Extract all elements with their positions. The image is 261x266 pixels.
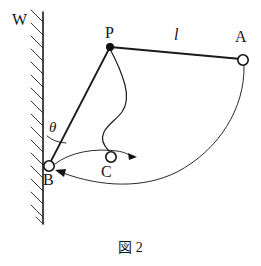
figure-caption: 図 2: [0, 236, 261, 256]
node-A: [238, 55, 248, 65]
label-point-A: A: [235, 29, 247, 45]
label-point-B: B: [43, 172, 54, 188]
velocity-arc-B-to-right: [55, 150, 131, 164]
label-point-C: C: [101, 164, 112, 180]
arrow-head-velocity: [128, 153, 137, 160]
node-P: [107, 44, 114, 51]
label-angle-theta: θ: [49, 120, 56, 135]
node-C: [106, 152, 116, 162]
pendulum-diagram: [0, 0, 261, 266]
label-pivot-P: P: [105, 25, 114, 41]
arrow-head-at-B: [55, 169, 66, 177]
label-length-l: l: [174, 27, 178, 43]
label-wall-W: W: [12, 12, 27, 28]
wall-hatching: [31, 10, 43, 224]
figure-container: W P A l θ B C 図 2: [0, 0, 261, 266]
string-segment-PB: [51, 47, 110, 161]
string-segment-PA: [110, 47, 241, 59]
node-B: [44, 161, 54, 171]
wavy-string-PC: [102, 49, 126, 151]
